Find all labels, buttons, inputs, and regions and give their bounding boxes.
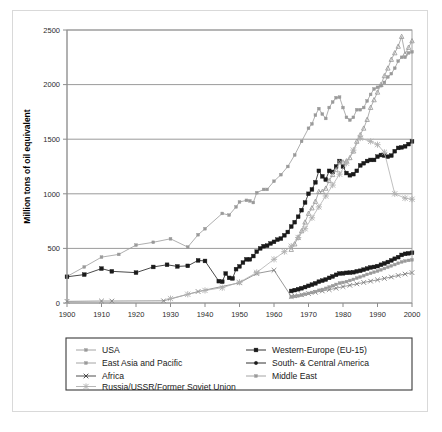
data-point: [402, 195, 408, 201]
data-point: [314, 180, 318, 184]
series-line: [67, 270, 412, 301]
data-point: [296, 287, 300, 291]
data-point: [362, 161, 366, 165]
series-middle-east: [290, 258, 414, 298]
data-point: [393, 67, 396, 70]
data-point: [307, 284, 311, 288]
data-point: [349, 279, 352, 282]
data-point: [279, 237, 283, 241]
data-point: [202, 287, 208, 293]
data-point: [307, 292, 310, 295]
data-point: [338, 96, 341, 99]
data-point: [335, 96, 338, 99]
data-point: [324, 117, 327, 120]
data-point: [383, 262, 387, 266]
data-point: [203, 259, 207, 263]
data-point: [372, 265, 376, 269]
data-point: [204, 227, 207, 230]
y-tick-label-2000: 2000: [43, 80, 60, 89]
data-point: [238, 265, 242, 269]
data-point: [262, 188, 265, 191]
series-line: [171, 138, 413, 299]
data-point: [290, 296, 293, 299]
chart-legend: USAWestern-Europe (EU-15)East Asia and P…: [66, 338, 412, 392]
data-point: [254, 269, 260, 275]
data-point: [400, 253, 404, 257]
data-point: [369, 93, 372, 96]
series-western-europe-eu-15: [65, 139, 414, 283]
data-point: [320, 279, 324, 283]
data-point: [389, 259, 393, 263]
data-point: [221, 212, 224, 215]
series-line: [67, 141, 412, 281]
data-point: [383, 267, 386, 270]
data-point: [241, 261, 245, 265]
data-point: [303, 201, 307, 205]
data-point: [368, 138, 374, 144]
data-point: [386, 266, 389, 269]
data-point: [293, 220, 297, 224]
data-point: [186, 264, 190, 268]
data-point: [258, 247, 262, 251]
data-point: [300, 208, 304, 212]
data-point: [390, 264, 393, 267]
data-point: [281, 249, 287, 255]
data-point: [400, 145, 404, 149]
data-point: [369, 158, 373, 162]
data-point: [302, 226, 308, 232]
data-point: [167, 296, 173, 302]
data-point: [321, 113, 324, 116]
data-point: [404, 260, 407, 263]
data-point: [300, 140, 303, 143]
data-point: [297, 294, 300, 297]
y-tick-label-1000: 1000: [43, 190, 60, 199]
data-point: [220, 280, 224, 284]
data-point: [351, 172, 355, 176]
data-point: [100, 267, 104, 271]
data-point: [262, 244, 266, 248]
data-point: [330, 182, 336, 188]
data-point: [349, 119, 352, 122]
data-point: [266, 188, 269, 191]
data-point: [338, 282, 341, 285]
legend-label: South- & Central America: [272, 358, 369, 368]
data-point: [380, 268, 383, 271]
data-point: [300, 286, 304, 290]
data-point: [151, 265, 155, 269]
legend-marker-icon: [85, 362, 88, 365]
data-point: [317, 289, 320, 292]
data-point: [327, 276, 331, 280]
data-point: [358, 269, 362, 273]
data-point: [314, 114, 317, 117]
data-point: [407, 259, 410, 262]
data-point: [117, 253, 120, 256]
data-point: [348, 173, 352, 177]
x-tick-label-1980: 1980: [335, 310, 352, 319]
data-point: [186, 246, 189, 249]
data-point: [345, 171, 349, 175]
data-point: [295, 234, 301, 240]
data-point: [165, 263, 169, 267]
data-point: [403, 252, 407, 256]
data-point: [355, 269, 359, 273]
x-tick-label-1990: 1990: [369, 310, 386, 319]
data-point: [393, 149, 397, 153]
data-point: [372, 158, 376, 162]
data-point: [134, 271, 138, 275]
data-point: [397, 60, 400, 63]
data-point: [336, 171, 342, 177]
x-tick-label-1930: 1930: [162, 310, 179, 319]
data-point: [323, 193, 329, 199]
data-point: [376, 264, 380, 268]
data-point: [82, 273, 86, 277]
data-point: [265, 244, 269, 248]
data-point: [238, 201, 241, 204]
data-point: [293, 295, 296, 298]
data-point: [345, 116, 348, 119]
data-point: [317, 169, 321, 173]
data-point: [307, 192, 311, 196]
chart-figure: 0500100015002000250019001910192019301940…: [0, 0, 442, 432]
data-point: [310, 283, 314, 287]
data-point: [335, 283, 338, 286]
data-point: [392, 191, 398, 197]
